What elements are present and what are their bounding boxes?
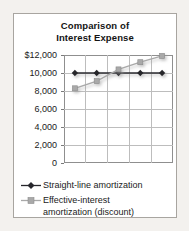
legend-item-straight-line: Straight-line amortization (21, 179, 175, 192)
legend-item-effective-interest: Effective-interest amortization (discoun… (21, 194, 175, 219)
legend-label-straight-line: Straight-line amortization (43, 179, 143, 192)
y-axis-label: 2,000 (14, 140, 57, 150)
line-chart-plot (64, 55, 173, 163)
legend-marker-straight-line-icon (21, 181, 41, 190)
y-axis-label: 8,000 (14, 86, 57, 96)
y-axis-label: 0 (14, 158, 57, 168)
y-axis-label: 4,000 (14, 122, 57, 132)
page-background: Comparison of Interest Expense $12,000 1… (0, 0, 189, 231)
chart-card: Comparison of Interest Expense $12,000 1… (13, 13, 177, 218)
chart-legend: Straight-line amortization Effective-int… (21, 179, 175, 221)
y-axis-label: $12,000 (14, 50, 57, 60)
y-axis-label: 10,000 (14, 68, 57, 78)
legend-label-effective-interest: Effective-interest amortization (discoun… (43, 194, 155, 219)
y-axis-label: 6,000 (14, 104, 57, 114)
legend-marker-effective-interest-icon (21, 196, 41, 205)
